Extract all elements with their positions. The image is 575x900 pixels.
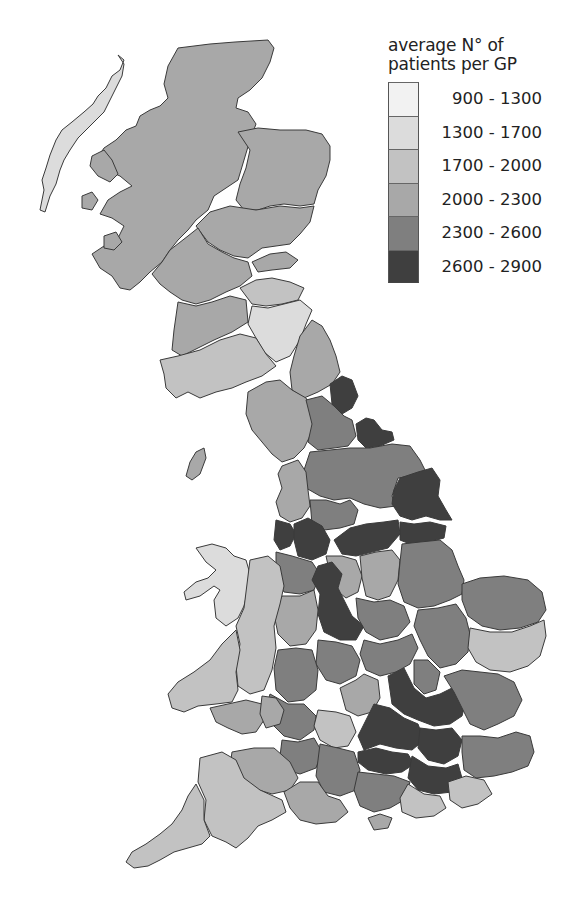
legend-label: 2000 - 2300 xyxy=(419,190,542,209)
region-grampian xyxy=(236,128,330,210)
region-cornwall xyxy=(126,784,210,868)
region-oxfordshire xyxy=(314,710,356,748)
region-isle-of-wight xyxy=(368,814,392,830)
legend-swatch xyxy=(388,116,419,150)
region-glamorgan xyxy=(210,700,264,734)
legend-swatch xyxy=(388,149,419,183)
region-lincolnshire xyxy=(398,540,464,608)
legend-items: 900 - 1300 1300 - 1700 1700 - 2000 2000 … xyxy=(388,82,568,283)
legend-item: 2600 - 2900 xyxy=(388,250,568,284)
legend-swatch xyxy=(388,183,419,217)
legend-swatch xyxy=(388,216,419,250)
region-kent xyxy=(462,732,534,778)
legend-label: 900 - 1300 xyxy=(419,89,542,108)
legend-swatch xyxy=(388,82,419,116)
region-west-midlands xyxy=(316,640,360,684)
legend-title: average N° of patients per GP xyxy=(388,36,568,74)
region-berkshire xyxy=(358,748,414,774)
region-herefordshire-worcestershire xyxy=(274,648,318,702)
region-merseyside xyxy=(274,520,296,550)
region-leicestershire xyxy=(356,598,410,640)
region-isle-of-man xyxy=(186,448,206,480)
legend-item: 2000 - 2300 xyxy=(388,183,568,217)
legend-item: 2300 - 2600 xyxy=(388,216,568,250)
region-fife xyxy=(252,252,298,272)
region-teesside xyxy=(356,418,394,448)
region-northamptonshire xyxy=(360,634,418,676)
region-bedfordshire xyxy=(414,660,440,694)
legend-item: 900 - 1300 xyxy=(388,82,568,116)
region-london xyxy=(418,728,462,764)
legend-title-line2: patients per GP xyxy=(388,55,568,74)
legend: average N° of patients per GP 900 - 1300… xyxy=(388,36,568,283)
legend-title-line1: average N° of xyxy=(388,36,568,55)
legend-label: 1700 - 2000 xyxy=(419,156,542,175)
region-north-wales xyxy=(184,544,250,626)
region-east-sussex xyxy=(448,776,492,808)
region-norfolk xyxy=(462,576,546,630)
legend-swatch xyxy=(388,250,419,284)
region-cambridgeshire xyxy=(414,604,470,668)
region-dyfed xyxy=(168,630,240,712)
legend-label: 2600 - 2900 xyxy=(419,257,542,276)
legend-label: 1300 - 1700 xyxy=(419,123,542,142)
region-outer-hebrides xyxy=(40,55,124,212)
legend-item: 1300 - 1700 xyxy=(388,116,568,150)
legend-label: 2300 - 2600 xyxy=(419,223,542,242)
legend-item: 1700 - 2000 xyxy=(388,149,568,183)
region-nottinghamshire xyxy=(360,550,400,600)
